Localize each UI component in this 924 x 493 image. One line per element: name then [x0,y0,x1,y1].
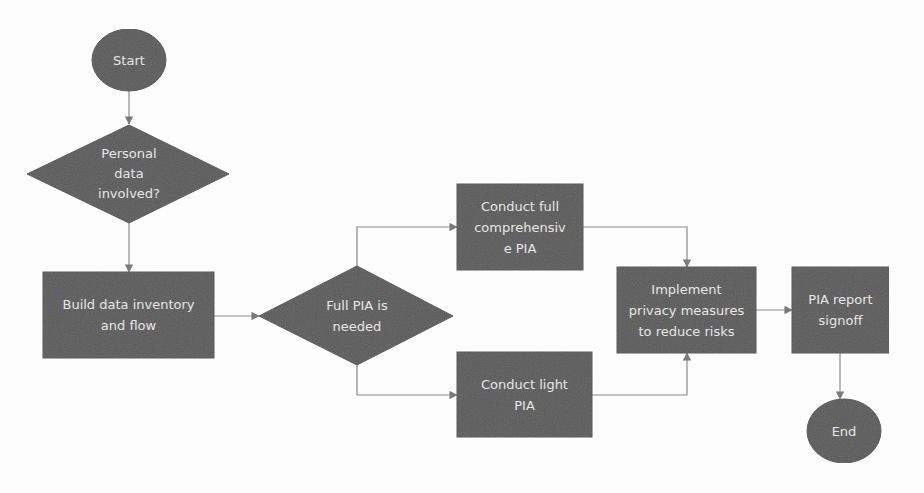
implement-measures-node [617,267,756,353]
edge-full-pia-to-conduct-full [357,227,457,266]
edge-full-pia-to-conduct-light [357,365,457,395]
build-inventory-node [43,272,214,358]
flowchart-canvas [0,0,924,493]
end-node [807,399,881,463]
start-node [92,29,166,91]
edge-conduct-full-to-implement [583,227,687,267]
report-signoff-node [792,267,889,353]
edge-conduct-light-to-implement [592,353,687,395]
personal-data-decision [27,125,229,223]
conduct-full-pia-node [457,184,583,270]
conduct-light-pia-node [457,352,592,437]
full-pia-decision [259,266,453,365]
